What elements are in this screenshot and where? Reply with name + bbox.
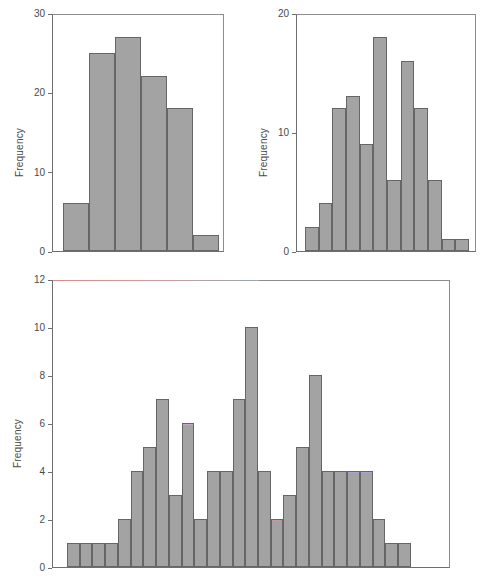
histogram-bar [428,180,442,251]
histogram-bar [63,203,89,251]
histogram-bar [156,399,169,567]
histogram-bar [105,543,118,567]
y-axis-tick-label: 2 [39,515,48,525]
panel-top-right: Frequency 01020 [248,2,496,264]
frame-top-artifact [53,280,259,281]
histogram-bar [115,37,141,251]
histogram-bar [309,375,322,567]
y-axis-tick-label: 0 [283,247,292,257]
histogram-bar [401,61,415,251]
histogram-bar [347,471,360,567]
bar-series-bottom [53,281,449,567]
histogram-bar [455,239,469,251]
histogram-bar [271,519,284,567]
histogram-bar [398,543,411,567]
y-axis-tick-label: 20 [278,9,292,19]
histogram-bar [385,543,398,567]
bar-series-top-right [297,15,475,251]
bar-top-artifact [348,472,359,473]
histogram-bar [373,37,387,251]
histogram-bar [169,495,182,567]
y-axis-tick-label: 10 [34,323,48,333]
y-axis-tick-label: 6 [39,419,48,429]
y-axis-top-right: 01020 [262,14,296,252]
panel-bottom: Frequency 024681012 [0,268,496,581]
histogram-bar [414,108,428,251]
histogram-figure: Frequency 0102030 Frequency 01020 Freque… [0,0,496,581]
plot-area-bottom [52,280,450,568]
y-axis-bottom: 024681012 [16,280,52,568]
histogram-bar [373,519,386,567]
histogram-bar [118,519,131,567]
plot-area-top-left [52,14,224,252]
y-axis-tick-label: 10 [278,128,292,138]
bar-top-artifact [183,424,194,425]
histogram-bar [360,144,374,251]
histogram-bar [332,108,346,251]
y-axis-tick-label: 0 [39,563,48,573]
histogram-bar [305,227,319,251]
y-axis-top-left: 0102030 [18,14,52,252]
bar-top-artifact [272,520,283,521]
bar-series-top-left [53,15,223,251]
panel-top-left: Frequency 0102030 [0,2,248,264]
histogram-bar [167,108,193,251]
histogram-bar [92,543,105,567]
histogram-bar [334,471,347,567]
y-axis-tick-label: 4 [39,467,48,477]
histogram-bar [220,471,233,567]
histogram-bar [346,96,360,251]
y-axis-tick-label: 8 [39,371,48,381]
histogram-bar [233,399,246,567]
histogram-bar [89,53,115,251]
histogram-bar [80,543,93,567]
y-axis-tick-label: 12 [34,275,48,285]
histogram-bar [360,471,373,567]
histogram-bar [131,471,144,567]
y-axis-tick-label: 0 [39,247,48,257]
histogram-bar [194,519,207,567]
histogram-bar [143,447,156,567]
histogram-bar [387,180,401,251]
histogram-bar [182,423,195,567]
histogram-bar [141,76,167,251]
y-axis-tick-label: 30 [34,9,48,19]
histogram-bar [442,239,456,251]
histogram-bar [245,327,258,567]
histogram-bar [296,447,309,567]
plot-area-top-right [296,14,476,252]
histogram-bar [258,471,271,567]
bar-top-artifact [361,472,372,473]
histogram-bar [193,235,219,251]
histogram-bar [67,543,80,567]
histogram-bar [207,471,220,567]
y-axis-tick-label: 10 [34,168,48,178]
histogram-bar [322,471,335,567]
y-axis-tick-label: 20 [34,88,48,98]
histogram-bar [283,495,296,567]
histogram-bar [319,203,333,251]
